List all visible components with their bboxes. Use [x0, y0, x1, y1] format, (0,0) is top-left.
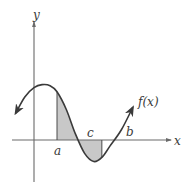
function-graph: y x f(x) a c b	[0, 0, 188, 193]
function-curve	[16, 84, 133, 161]
point-a-label: a	[54, 144, 61, 158]
x-axis-label: x	[174, 134, 181, 148]
function-label: f(x)	[137, 95, 159, 109]
y-axis-label: y	[32, 8, 40, 22]
shaded-region-c-to-b	[78, 139, 102, 161]
point-c-label: c	[87, 126, 94, 140]
point-b-label: b	[126, 125, 134, 139]
